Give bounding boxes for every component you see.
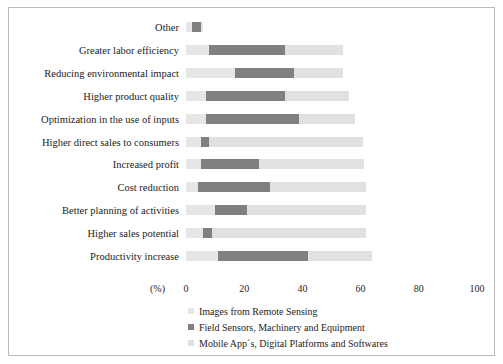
bar-segment [186,228,203,238]
bar-segment [186,137,201,147]
bar-row: Higher product quality [186,91,477,101]
category-label: Cost reduction [117,182,179,193]
category-label: Greater labor efficiency [79,44,179,55]
bar-segment [186,68,235,78]
category-label: Reducing environmental impact [44,67,179,78]
bar-segment [259,159,364,169]
bar-segment [294,68,343,78]
x-tick-label: 100 [470,283,485,294]
x-axis-unit-label: (%) [150,283,165,294]
category-label: Better planning of activities [62,205,179,216]
bar-segment [218,251,308,261]
plot-area: OtherGreater labor efficiencyReducing en… [186,22,477,277]
bar-row: Better planning of activities [186,205,477,215]
category-label: Optimization in the use of inputs [41,113,179,124]
bar-segment [203,228,212,238]
bar-segment [235,68,293,78]
legend-item[interactable]: Field Sensors, Machinery and Equipment [188,319,478,335]
bar-row: Productivity increase [186,251,477,261]
bar-segment [201,22,204,32]
bar-segment [198,182,271,192]
x-tick-label: 80 [414,283,424,294]
x-tick-label: 40 [297,283,307,294]
legend-item[interactable]: Images from Remote Sensing [188,303,478,319]
legend-item[interactable]: Mobile App´s, Digital Platforms and Soft… [188,335,478,351]
category-label: Increased profit [113,159,179,170]
category-label: Higher sales potential [87,228,179,239]
category-label: Higher product quality [83,90,179,101]
bar-segment [186,91,206,101]
category-label: Productivity increase [90,251,179,262]
bar-segment [270,182,366,192]
bar-row: Other [186,22,477,32]
legend-swatch-icon [188,340,194,346]
bar-segment [209,45,285,55]
bar-segment [299,114,354,124]
bar-segment [186,114,206,124]
bar-row: Greater labor efficiency [186,45,477,55]
bar-row: Cost reduction [186,182,477,192]
bar-segment [215,205,247,215]
bar-segment [186,182,198,192]
legend-swatch-icon [188,324,194,330]
bar-segment [186,159,201,169]
x-tick-label: 0 [184,283,189,294]
bar-segment [247,205,366,215]
bar-segment [285,91,349,101]
bar-segment [186,251,218,261]
bar-row: Higher sales potential [186,228,477,238]
bar-segment [308,251,372,261]
x-tick-label: 20 [239,283,249,294]
bar-row: Increased profit [186,159,477,169]
category-label: Higher direct sales to consumers [42,136,179,147]
legend-label: Images from Remote Sensing [199,306,318,317]
bar-segment [201,137,210,147]
bar-segment [201,159,259,169]
bar-segment [192,22,201,32]
bar-row: Optimization in the use of inputs [186,114,477,124]
category-label: Other [155,22,179,33]
bar-segment [212,228,366,238]
bar-segment [209,137,363,147]
bar-segment [186,205,215,215]
chart-legend: Images from Remote SensingField Sensors,… [188,303,478,351]
bar-row: Reducing environmental impact [186,68,477,78]
legend-label: Field Sensors, Machinery and Equipment [199,322,365,333]
bar-segment [206,91,285,101]
bar-row: Higher direct sales to consumers [186,137,477,147]
bar-segment [206,114,299,124]
chart-figure: OtherGreater labor efficiencyReducing en… [0,0,503,364]
bar-segment [186,45,209,55]
x-axis: 020406080100 [186,283,477,297]
legend-label: Mobile App´s, Digital Platforms and Soft… [199,338,388,349]
x-tick-label: 60 [356,283,366,294]
legend-swatch-icon [188,308,194,314]
bar-segment [285,45,343,55]
